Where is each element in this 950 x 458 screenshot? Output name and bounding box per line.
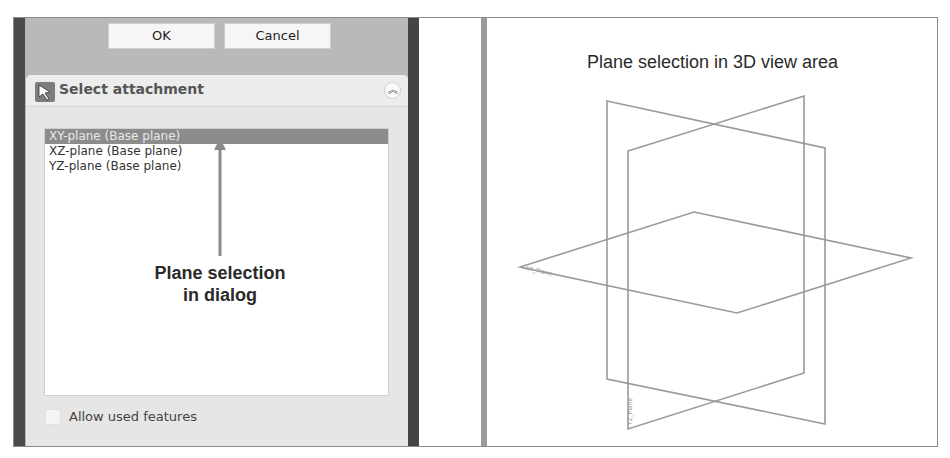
xy-plane-label: XY_Plane: [525, 264, 554, 278]
xy-plane-outline[interactable]: [520, 212, 911, 313]
yz-plane-label: YZ_Plane: [626, 397, 634, 426]
xz-plane-outline[interactable]: [607, 101, 825, 424]
yz-plane-outline[interactable]: [628, 96, 804, 429]
base-planes-drawing: XY_Plane YZ_Plane: [0, 0, 950, 458]
